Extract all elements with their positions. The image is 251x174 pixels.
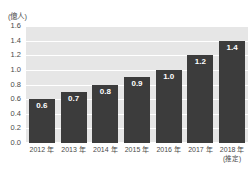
plot-area: 0.60.70.80.91.01.21.4 (26, 26, 248, 143)
bar[interactable]: 1.4 (219, 41, 245, 143)
bar[interactable]: 0.7 (61, 92, 87, 143)
y-axis-tick-label: 1.0 (11, 66, 21, 74)
bar-value-label: 0.6 (29, 101, 55, 110)
x-axis-tick-label: 2014 年 (89, 145, 121, 154)
bar-chart: (億人) 0.00.20.40.60.81.01.21.41.6 0.60.70… (0, 0, 251, 174)
x-axis-tick-year: 2013 年 (61, 146, 86, 153)
x-axis-tick-year: 2014 年 (93, 146, 118, 153)
bar-slot: 1.0 (156, 26, 182, 143)
y-axis-tick-label: 1.2 (11, 51, 21, 59)
x-axis-tick-year: 2017 年 (188, 146, 213, 153)
bar-slot: 1.2 (187, 26, 213, 143)
x-axis-tick-year: 2018 年 (220, 146, 245, 153)
y-axis-tick-label: 0.2 (11, 124, 21, 132)
bar[interactable]: 1.0 (156, 70, 182, 143)
bar[interactable]: 0.8 (92, 85, 118, 144)
y-axis-tick-label: 0.8 (11, 81, 21, 89)
y-axis-tick-label: 1.6 (11, 22, 21, 30)
bar-slot: 0.8 (92, 26, 118, 143)
x-axis-tick-label: 2013 年 (58, 145, 90, 154)
bar-value-label: 0.7 (61, 94, 87, 103)
bar[interactable]: 0.6 (29, 99, 55, 143)
x-axis-tick-year: 2012 年 (30, 146, 55, 153)
y-axis-tick-label: 1.4 (11, 37, 21, 45)
x-axis-tick-label: 2012 年 (26, 145, 58, 154)
bars-group: 0.60.70.80.91.01.21.4 (26, 26, 248, 143)
x-axis-tick-label: 2016 年 (153, 145, 185, 154)
bar-value-label: 0.8 (92, 87, 118, 96)
bar-slot: 0.7 (61, 26, 87, 143)
bar-value-label: 1.2 (187, 57, 213, 66)
bar-value-label: 0.9 (124, 79, 150, 88)
bar-slot: 1.4 (219, 26, 245, 143)
bar-slot: 0.6 (29, 26, 55, 143)
x-axis-tick-label: 2015 年 (121, 145, 153, 154)
x-axis-tick-sublabel: (推定) (216, 154, 248, 163)
y-axis: 0.00.20.40.60.81.01.21.41.6 (0, 0, 24, 174)
bar-value-label: 1.4 (219, 43, 245, 52)
bar[interactable]: 1.2 (187, 55, 213, 143)
x-axis: 2012 年2013 年2014 年2015 年2016 年2017 年2018… (26, 145, 248, 174)
x-axis-tick-year: 2015 年 (125, 146, 150, 153)
y-axis-tick-label: 0.6 (11, 95, 21, 103)
y-axis-tick-label: 0.0 (11, 139, 21, 147)
bar-value-label: 1.0 (156, 72, 182, 81)
x-axis-tick-label: 2017 年 (185, 145, 217, 154)
x-axis-tick-label: 2018 年(推定) (216, 145, 248, 163)
y-axis-tick-label: 0.4 (11, 110, 21, 118)
x-axis-tick-year: 2016 年 (156, 146, 181, 153)
bar[interactable]: 0.9 (124, 77, 150, 143)
bar-slot: 0.9 (124, 26, 150, 143)
